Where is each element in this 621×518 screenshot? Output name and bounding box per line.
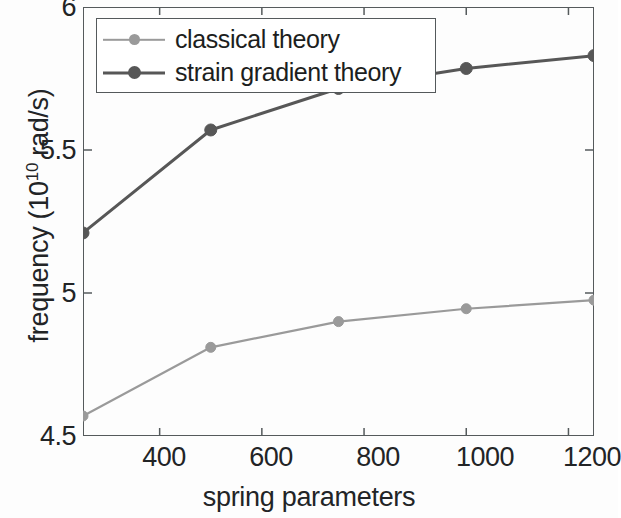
data-series-group — [83, 50, 594, 421]
legend-label-classical-theory: classical theory — [175, 27, 340, 52]
data-point-classical-theory-1250 — [589, 295, 594, 305]
y-tick-label-6: 6 — [61, 0, 76, 21]
data-point-strain-gradient-theory-500 — [205, 124, 217, 136]
x-tick-label-800: 800 — [356, 444, 400, 471]
legend-swatch-strain-gradient-theory — [103, 63, 165, 83]
y-axis-title: frequency (1010 rad/s) — [24, 1, 55, 431]
data-point-strain-gradient-theory-1000 — [460, 62, 472, 74]
x-axis-title: spring parameters — [0, 482, 618, 513]
data-point-classical-theory-750 — [334, 317, 344, 327]
x-tick-label-400: 400 — [142, 444, 186, 471]
y-axis-title-base: frequency (10 — [24, 181, 54, 342]
x-tick-label-1000: 1000 — [456, 444, 514, 471]
y-axis-title-exponent: 10 — [23, 163, 42, 181]
legend-label-strain-gradient-theory: strain gradient theory — [175, 60, 401, 85]
legend-swatch-classical-theory — [103, 30, 165, 50]
legend-marker-classical-theory — [129, 34, 140, 45]
data-point-classical-theory-500 — [206, 342, 216, 352]
legend-item-classical-theory: classical theory — [103, 23, 429, 56]
series-classical-theory — [83, 295, 594, 421]
data-point-classical-theory-1000 — [461, 304, 471, 314]
legend-item-strain-gradient-theory: strain gradient theory — [103, 56, 429, 89]
x-tick-label-1200: 1200 — [563, 444, 621, 471]
legend-marker-strain-gradient-theory — [128, 66, 141, 79]
x-tick-label-600: 600 — [249, 444, 293, 471]
y-axis-title-tail: rad/s) — [24, 89, 54, 163]
data-point-strain-gradient-theory-1250 — [588, 50, 594, 62]
y-tick-label-5: 5 — [61, 280, 76, 307]
legend: classical theory strain gradient theory — [96, 18, 436, 93]
